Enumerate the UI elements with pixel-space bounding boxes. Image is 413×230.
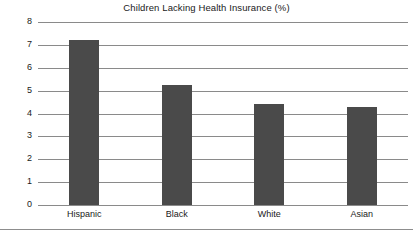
y-axis-tick-labels: 012345678 (0, 22, 32, 205)
bar-chart-figure: Children Lacking Health Insurance (%) 01… (0, 0, 413, 230)
bar-asian (347, 107, 377, 205)
plot-area (38, 22, 408, 205)
y-tick-label: 1 (10, 177, 32, 186)
x-tick-label-white: White (223, 209, 316, 220)
y-tick-label: 3 (10, 131, 32, 140)
chart-title: Children Lacking Health Insurance (%) (0, 2, 413, 13)
gridline-8 (38, 22, 408, 23)
y-tick-label: 2 (10, 154, 32, 163)
y-tick-label: 0 (10, 200, 32, 209)
x-tick-label-asian: Asian (316, 209, 409, 220)
bar-black (162, 85, 192, 205)
y-tick-label: 5 (10, 86, 32, 95)
y-tick-label: 8 (10, 17, 32, 26)
y-tick-label: 6 (10, 63, 32, 72)
figure-bottom-border (0, 229, 413, 230)
y-tick-label: 7 (10, 40, 32, 49)
y-tick-label: 4 (10, 109, 32, 118)
gridline-0 (38, 205, 408, 206)
x-tick-label-black: Black (131, 209, 224, 220)
bar-white (254, 104, 284, 205)
x-tick-label-hispanic: Hispanic (38, 209, 131, 220)
bar-hispanic (69, 40, 99, 205)
x-axis-tick-labels: HispanicBlackWhiteAsian (38, 209, 408, 227)
